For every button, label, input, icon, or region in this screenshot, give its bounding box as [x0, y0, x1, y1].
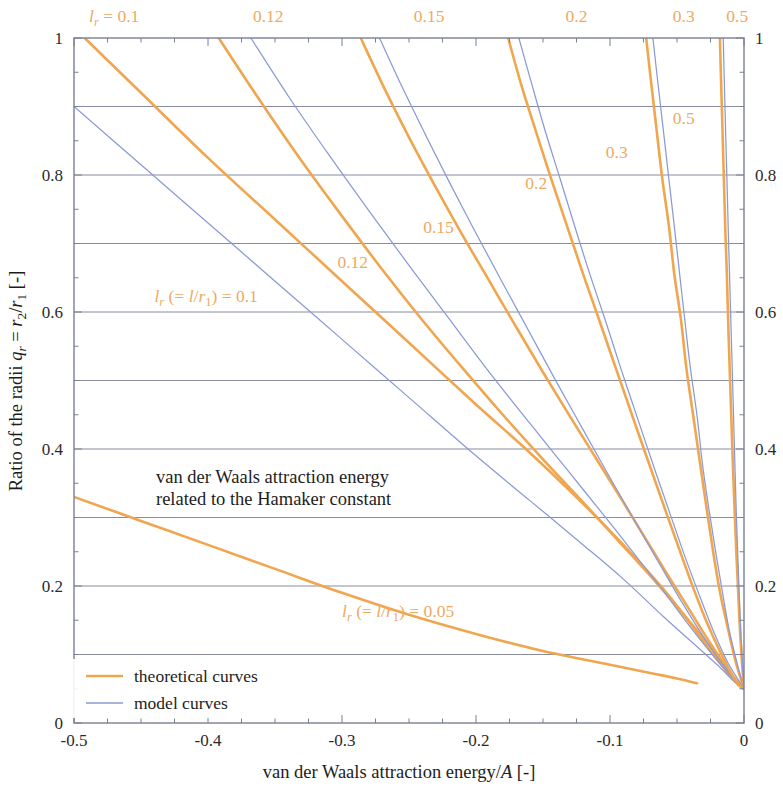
y-tick-label-left-2: 0.4: [42, 440, 64, 459]
x-tick-label-2: -0.3: [329, 731, 356, 750]
van-der-waals-chart: -0.5-0.4-0.3-0.2-0.10000.20.20.40.40.60.…: [0, 0, 783, 789]
x-axis-title-plain: van der Waals attraction energy/: [263, 762, 502, 782]
top-label-2: 0.15: [414, 6, 445, 26]
curve-theoretical-l-r-0-1: [85, 38, 744, 689]
x-axis-title-unit: [-]: [512, 762, 535, 782]
gridlines: [74, 107, 744, 655]
x-axis-title: van der Waals attraction energy/A [-]: [263, 762, 536, 782]
legend-label-model: model curves: [134, 693, 228, 713]
inline-label-lr-005: lr (= l/r1) = 0.05: [342, 601, 454, 624]
y-axis-title-r1sub: 1: [14, 294, 29, 301]
inline-label-0-5: 0.5: [673, 108, 695, 128]
top-label-3: 0.2: [566, 6, 588, 26]
y-axis-title-eq: =: [6, 327, 26, 347]
top-label-0: lr = 0.1: [89, 6, 139, 29]
top-label-5: 0.5: [726, 6, 748, 26]
x-tick-label-5: 0: [740, 731, 749, 750]
y-tick-label-left-1: 0.2: [42, 577, 63, 596]
inline-label-0-2: 0.2: [525, 173, 547, 193]
curves-clipped: [74, 38, 744, 689]
y-axis-title-unit: [-]: [6, 271, 26, 294]
y-tick-label-left-4: 0.8: [42, 166, 63, 185]
x-axis-title-italic: A: [499, 762, 513, 782]
x-tick-label-0: -0.5: [61, 731, 88, 750]
inline-label-lr-01-paren: (=: [164, 286, 188, 306]
legend-label-theoretical: theoretical curves: [134, 666, 258, 686]
y-axis-title-q: q: [6, 352, 26, 361]
y-tick-label-right-5: 1: [755, 29, 764, 48]
y-tick-label-left-5: 1: [55, 29, 64, 48]
chart-annotation-line1: van der Waals attraction energy: [156, 467, 390, 487]
y-tick-label-right-1: 0.2: [755, 577, 776, 596]
inline-label-lr-005-value: 0.05: [424, 601, 455, 621]
curve-model-l-r-0-5: [723, 38, 744, 689]
y-tick-label-right-3: 0.6: [755, 303, 776, 322]
top-curve-labels: lr = 0.10.120.150.20.30.5: [89, 6, 748, 29]
inline-label-lr-01: lr (= l/r1) = 0.1: [154, 286, 257, 309]
curve-model-l-r-0-2: [519, 38, 744, 689]
curve-model-l-r-0-12: [251, 38, 744, 689]
inline-label-lr-01-value: 0.1: [236, 286, 258, 306]
inline-label-lr-005-close: ) =: [399, 601, 423, 621]
legend: theoretical curves model curves: [72, 659, 300, 718]
y-tick-label-right-4: 0.8: [755, 166, 776, 185]
y-tick-label-left-0: 0: [55, 714, 64, 733]
top-label-rest: = 0.1: [99, 6, 140, 26]
y-tick-label-left-3: 0.6: [42, 303, 63, 322]
y-axis-title: Ratio of the radii qr = r2/r1 [-]: [6, 271, 29, 492]
curve-theoretical-l-r-0-2: [508, 38, 744, 689]
y-axis-title-p1: Ratio of the radii: [6, 361, 26, 492]
y-tick-label-right-0: 0: [755, 714, 764, 733]
top-label-1: 0.12: [253, 6, 284, 26]
y-tick-label-right-2: 0.4: [755, 440, 777, 459]
curve-series: [74, 38, 744, 689]
y-axis-title-r2sub: 2: [14, 313, 29, 320]
curve-theoretical-l-r-0-12: [219, 38, 744, 689]
inline-label-0-12: 0.12: [337, 252, 368, 272]
top-label-4: 0.3: [673, 6, 695, 26]
x-tick-label-4: -0.1: [597, 731, 624, 750]
chart-annotation-line2: related to the Hamaker constant: [156, 489, 392, 509]
x-tick-label-1: -0.4: [195, 731, 222, 750]
inline-label-0-15: 0.15: [423, 217, 454, 237]
inline-label-0-3: 0.3: [606, 142, 628, 162]
inline-label-lr-01-close: ) =: [211, 286, 235, 306]
x-tick-label-3: -0.2: [463, 731, 490, 750]
chart-root: -0.5-0.4-0.3-0.2-0.10000.20.20.40.40.60.…: [0, 0, 783, 789]
inline-label-lr-005-paren: (=: [352, 601, 376, 621]
